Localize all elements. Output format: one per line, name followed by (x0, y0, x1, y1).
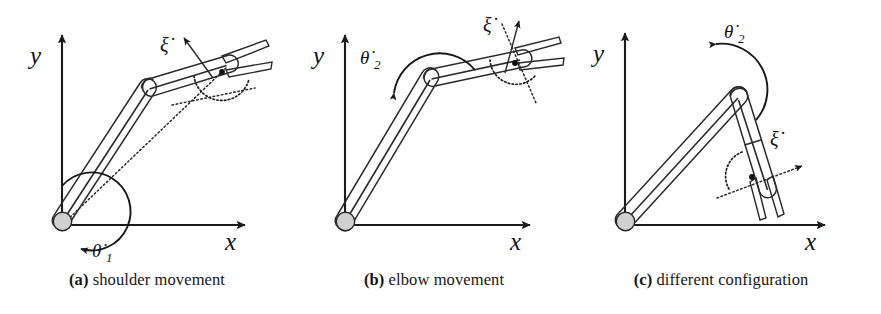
theta1-dot-arc-a (62, 172, 131, 250)
caption-text-a: shoulder movement (93, 270, 225, 289)
xi-dot-arrow-a (184, 38, 213, 78)
link-1-b (335, 68, 439, 231)
theta2-dot-subscript-b: 2 (374, 57, 381, 72)
y-axis-label-a: y (27, 42, 42, 69)
x-axis-label-c: x (804, 228, 816, 255)
panel-a-drawing: y x (0, 0, 294, 268)
panel-b-drawing: y x (287, 0, 581, 268)
caption-tag-c: (c) (634, 270, 653, 289)
end-effector-point-a (219, 69, 225, 75)
shoulder-joint-c (616, 212, 634, 230)
end-effector-point-c (749, 174, 755, 180)
figure-root: y x (0, 0, 881, 314)
panel-c-drawing: y x (574, 0, 868, 268)
orientation-dotted-arc-a (194, 76, 249, 100)
end-effector-point-b (512, 60, 518, 66)
caption-panel-a: (a) shoulder movement (0, 268, 294, 292)
caption-tag-a: (a) (69, 270, 89, 289)
xi-dot-label-b: ξ̇ (483, 14, 498, 36)
theta1-dot-subscript-a: 1 (106, 250, 113, 265)
caption-panel-c: (c) different configuration (574, 268, 868, 292)
shoulder-joint-a (53, 212, 71, 230)
caption-panel-b: (b) elbow movement (287, 268, 581, 292)
panel-shoulder-movement: y x (0, 0, 294, 314)
elbow-joint-b (423, 69, 435, 79)
xi-dot-label-c: ξ̇ (770, 128, 785, 150)
x-axis-label-a: x (224, 228, 236, 255)
gripper-a (222, 40, 272, 77)
orientation-dotted-arc-c (726, 152, 742, 189)
y-axis-label-c: y (590, 40, 605, 67)
xi-dot-label-a: ξ̇ (160, 34, 175, 56)
gripper-b (515, 37, 564, 70)
y-axis-label-b: y (310, 42, 325, 69)
caption-text-b: elbow movement (389, 270, 505, 289)
theta2-dot-subscript-c: 2 (738, 31, 745, 46)
link-1-c (615, 87, 747, 230)
caption-tag-b: (b) (364, 270, 384, 289)
link-1-a (52, 79, 156, 231)
caption-text-c: different configuration (657, 270, 809, 289)
panel-elbow-movement: y x (287, 0, 581, 314)
panel-different-configuration: y x (574, 0, 868, 314)
x-axis-label-b: x (509, 228, 521, 255)
link-2-a (143, 55, 239, 96)
shoulder-joint-b (336, 212, 354, 230)
orientation-dotted-ray-a (172, 88, 255, 105)
